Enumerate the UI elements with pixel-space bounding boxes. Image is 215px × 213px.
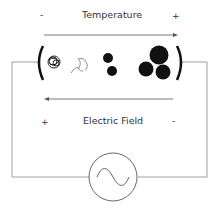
tangled-coil-particle [48, 56, 60, 68]
left-bracket-icon [39, 46, 43, 80]
right-bracket-icon [177, 46, 181, 80]
ac-source-icon [89, 153, 137, 201]
two-small-dots-particle [103, 53, 117, 76]
diagram-canvas [0, 0, 215, 213]
temperature-arrow-icon [44, 33, 178, 37]
wavy-strand-particle [71, 58, 87, 73]
field-arrow-icon [44, 97, 173, 101]
three-large-balls-particle [139, 46, 171, 80]
